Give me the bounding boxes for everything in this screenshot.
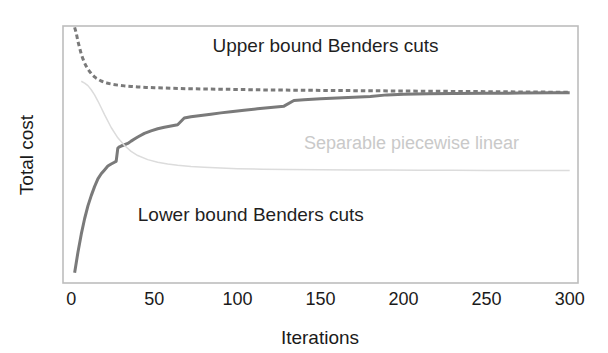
x-axis-label: Iterations: [281, 327, 359, 348]
plot-frame: [63, 26, 578, 283]
chart-annotation: Lower bound Benders cuts: [138, 204, 364, 225]
x-tick-label: 100: [222, 289, 252, 309]
x-tick-label: 250: [472, 289, 502, 309]
x-tick-label: 200: [389, 289, 419, 309]
y-axis-label: Total cost: [16, 114, 37, 195]
x-tick-label: 50: [144, 289, 164, 309]
chart-canvas: 050100150200250300 Iterations Total cost…: [0, 0, 608, 353]
x-tick-label: 150: [305, 289, 335, 309]
chart-annotation: Separable piecewise linear: [304, 133, 519, 153]
x-tick-label: 0: [66, 289, 76, 309]
chart-annotation: Upper bound Benders cuts: [213, 35, 439, 56]
chart-figure: 050100150200250300 Iterations Total cost…: [0, 0, 608, 353]
x-tick-label: 300: [555, 289, 585, 309]
